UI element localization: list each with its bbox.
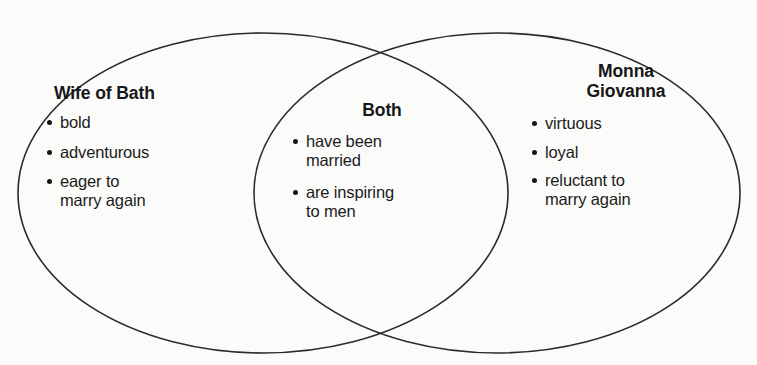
- wife-of-bath-bullet-list: bold adventurous eager to marry again: [46, 113, 231, 210]
- list-item-line-1: bold: [60, 113, 91, 131]
- list-item-line-2: to men: [306, 202, 356, 220]
- bullet-dot-icon: [47, 120, 52, 125]
- list-item-line-1: loyal: [545, 143, 578, 161]
- venn-region-wife-of-bath: Wife of Bath bold adventurous eager to m…: [46, 84, 231, 210]
- monna-giovanna-title: Monna Giovanna: [531, 62, 721, 102]
- list-item-line-2: marry again: [545, 190, 630, 208]
- bullet-dot-icon: [293, 190, 298, 195]
- bullet-dot-icon: [532, 178, 537, 183]
- list-item-line-1: eager to: [60, 172, 119, 190]
- list-item: adventurous: [46, 143, 231, 162]
- bullet-dot-icon: [532, 150, 537, 155]
- venn-region-both: Both have been married are inspiring to …: [292, 101, 472, 235]
- monna-giovanna-title-line-2: Giovanna: [587, 81, 666, 101]
- venn-region-monna-giovanna: Monna Giovanna virtuous loyal reluctant …: [531, 62, 721, 218]
- list-item: eager to marry again: [46, 172, 231, 209]
- venn-diagram: Wife of Bath bold adventurous eager to m…: [0, 0, 757, 365]
- list-item: reluctant to marry again: [531, 171, 721, 208]
- both-title: Both: [292, 101, 472, 121]
- list-item: are inspiring to men: [292, 183, 472, 220]
- list-item: loyal: [531, 143, 721, 162]
- list-item-line-1: virtuous: [545, 114, 602, 132]
- list-item-line-1: adventurous: [60, 143, 149, 161]
- list-item: bold: [46, 113, 231, 132]
- bullet-dot-icon: [532, 121, 537, 126]
- list-item: virtuous: [531, 114, 721, 133]
- list-item: have been married: [292, 132, 472, 169]
- monna-giovanna-bullet-list: virtuous loyal reluctant to marry again: [531, 114, 721, 209]
- list-item-line-1: reluctant to: [545, 171, 625, 189]
- both-bullet-list: have been married are inspiring to men: [292, 132, 472, 221]
- bullet-dot-icon: [47, 179, 52, 184]
- bullet-dot-icon: [47, 150, 52, 155]
- list-item-line-2: marry again: [60, 191, 145, 209]
- list-item-line-1: have been: [306, 132, 382, 150]
- list-item-line-1: are inspiring: [306, 183, 394, 201]
- list-item-line-2: married: [306, 151, 361, 169]
- wife-of-bath-title: Wife of Bath: [46, 84, 231, 104]
- bullet-dot-icon: [293, 139, 298, 144]
- monna-giovanna-title-line-1: Monna: [598, 61, 654, 81]
